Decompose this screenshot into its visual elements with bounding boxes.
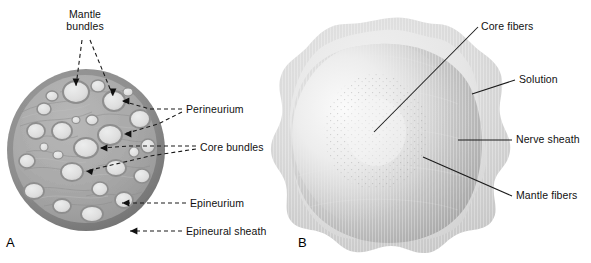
label-mantle-bundles-line2: bundles: [66, 20, 103, 32]
panel-a-nerve-cross-section: [7, 40, 196, 234]
core-fibers-shape: [292, 41, 464, 229]
label-core-fibers: Core fibers: [481, 20, 533, 32]
label-mantle-fibers: Mantle fibers: [516, 189, 577, 201]
label-mantle-bundles: Mantle bundles: [52, 8, 118, 32]
figure-root: Mantle bundles Perineurium Core bundles …: [0, 0, 591, 263]
label-perineurium: Perineurium: [186, 103, 244, 115]
label-mantle-bundles-line1: Mantle: [69, 8, 101, 20]
label-epineural-sheath: Epineural sheath: [186, 225, 266, 237]
panel-letter-b: B: [298, 235, 307, 250]
panel-b-nerve-in-solution: [265, 10, 520, 260]
panel-letter-a: A: [6, 235, 15, 250]
diagram-canvas: [0, 0, 591, 263]
label-solution: Solution: [519, 73, 558, 85]
label-nerve-sheath: Nerve sheath: [516, 133, 580, 145]
label-epineurium: Epineurium: [190, 197, 244, 209]
label-core-bundles: Core bundles: [200, 141, 264, 153]
